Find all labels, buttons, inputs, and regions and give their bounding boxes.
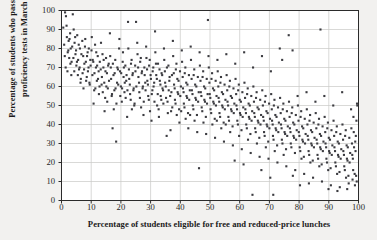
x-tick-label: 20 (108, 202, 134, 212)
y-tick-label: 70 (35, 62, 55, 72)
x-tick-label: 80 (286, 202, 312, 212)
y-axis-title-line1: Percentage of students who passed readin… (8, 0, 17, 118)
y-tick-label: 50 (35, 100, 55, 110)
y-tick-label: 60 (35, 81, 55, 91)
x-tick-label: 50 (197, 202, 223, 212)
y-axis-title-line2: proficiency tests in March 2000 (18, 0, 30, 135)
x-axis-tick-labels: 0102030405060708090100 (0, 202, 377, 216)
x-tick-label: 60 (227, 202, 253, 212)
x-tick-label: 90 (316, 202, 342, 212)
x-tick-label: 10 (78, 202, 104, 212)
x-axis-title: Percentage of students eligible for free… (44, 219, 374, 229)
x-tick-label: 70 (256, 202, 282, 212)
y-tick-label: 90 (35, 24, 55, 34)
y-tick-label: 20 (35, 157, 55, 167)
x-tick-label: 0 (49, 202, 75, 212)
y-axis-title: Percentage of students who passed readin… (7, 0, 30, 135)
x-tick-label: 40 (167, 202, 193, 212)
scatter-chart-figure: 0102030405060708090100 01020304050607080… (0, 0, 377, 240)
y-tick-label: 30 (35, 138, 55, 148)
y-tick-label: 40 (35, 119, 55, 129)
y-tick-label: 80 (35, 43, 55, 53)
y-tick-label: 100 (35, 5, 55, 15)
y-tick-label: 10 (35, 176, 55, 186)
x-tick-label: 30 (138, 202, 164, 212)
x-tick-label: 100 (346, 202, 372, 212)
